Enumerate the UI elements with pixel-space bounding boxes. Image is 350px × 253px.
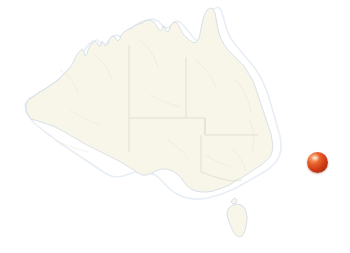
map-canvas: [0, 0, 350, 253]
location-marker-sphere[interactable]: [307, 152, 328, 173]
marker-highlight-gloss: [312, 155, 319, 161]
marker-layer: [0, 0, 350, 253]
